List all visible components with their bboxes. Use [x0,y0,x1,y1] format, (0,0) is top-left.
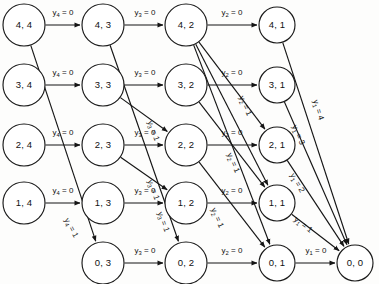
svg-text:y4 = 0: y4 = 0 [53,128,74,137]
node-n12[interactable]: 1, 2 [165,182,207,224]
edge-label-n44-to-n43: y4 = 0 [53,8,74,17]
node-n41[interactable]: 4, 1 [259,7,295,43]
edge-label-n03-to-n02: y3 = 0 [135,246,156,255]
node-label: 3, 4 [16,79,33,90]
edge-label-n12-to-n11: y2 = 0 [222,186,243,195]
svg-text:y1 = 1: y1 = 1 [292,215,315,236]
svg-text:y2 = 1: y2 = 1 [237,95,254,118]
network-diagram-canvas: 4, 44, 34, 24, 13, 43, 33, 23, 12, 42, 3… [0,0,379,284]
node-label: 3, 1 [269,79,286,90]
edge-label-n32-to-n31: y2 = 0 [222,68,243,77]
node-label: 2, 1 [269,139,286,150]
node-n33[interactable]: 3, 3 [82,64,124,106]
network-diagram: 4, 44, 34, 24, 13, 43, 33, 23, 12, 42, 3… [0,0,379,284]
node-n22[interactable]: 2, 2 [165,124,207,166]
node-label: 1, 2 [178,197,195,208]
node-n00[interactable]: 0, 0 [337,245,373,281]
node-n42[interactable]: 4, 2 [165,4,207,46]
node-n21[interactable]: 2, 1 [259,127,295,163]
svg-text:y4 = 0: y4 = 0 [53,8,74,17]
node-n11[interactable]: 1, 1 [259,185,295,221]
svg-text:y4 = 1: y4 = 1 [62,217,80,240]
node-label: 1, 3 [95,197,112,208]
node-label: 2, 2 [178,139,195,150]
node-label: 4, 4 [16,19,33,30]
node-n32[interactable]: 3, 2 [165,64,207,106]
node-n44[interactable]: 4, 4 [3,4,45,46]
node-label: 3, 3 [95,79,112,90]
svg-text:y2 = 0: y2 = 0 [222,246,243,255]
node-label: 0, 1 [269,257,286,268]
edge-label-n44-to-n03: y4 = 1 [62,217,80,240]
node-label: 4, 1 [269,19,286,30]
node-label: 4, 3 [95,19,112,30]
edge-n33-to-n22 [120,98,167,132]
edge-label-n43-to-n42: y3 = 0 [135,8,156,17]
node-n24[interactable]: 2, 4 [3,124,45,166]
edge-label-n02-to-n01: y2 = 0 [222,246,243,255]
node-label: 0, 3 [95,257,112,268]
svg-text:y2 = 0: y2 = 0 [222,186,243,195]
node-n43[interactable]: 4, 3 [82,4,124,46]
edge-n23-to-n12 [121,157,168,190]
edge-label-n42-to-n21: y2 = 1 [237,95,254,118]
svg-text:y3 = 0: y3 = 0 [135,68,156,77]
edge-label-n42-to-n01: y2 = 1 [209,207,226,230]
svg-text:y4 = 0: y4 = 0 [53,68,74,77]
svg-text:y1 = 0: y1 = 0 [306,246,327,255]
edge-label-n22-to-n21: y2 = 0 [222,128,243,137]
svg-text:y2 = 0: y2 = 0 [222,8,243,17]
edge-label-n24-to-n23: y4 = 0 [53,128,74,137]
node-label: 0, 2 [178,257,195,268]
node-n13[interactable]: 1, 3 [82,182,124,224]
svg-text:y4 = 0: y4 = 0 [53,186,74,195]
edge-label-n14-to-n13: y4 = 0 [53,186,74,195]
node-label: 1, 1 [269,197,286,208]
node-label: 4, 2 [178,19,195,30]
edge-label-n42-to-n41: y2 = 0 [222,8,243,17]
svg-text:y3 = 0: y3 = 0 [135,8,156,17]
edge-label-n41-to-n00: y1 = 4 [311,99,326,122]
nodes-layer: 4, 44, 34, 24, 13, 43, 33, 23, 12, 42, 3… [3,4,373,284]
node-label: 2, 4 [16,139,33,150]
node-label: 3, 2 [178,79,195,90]
node-label: 1, 4 [16,197,33,208]
node-label: 2, 3 [95,139,112,150]
svg-text:y1 = 4: y1 = 4 [311,99,326,122]
svg-text:y2 = 1: y2 = 1 [209,207,226,230]
edge-label-n11-to-n00: y1 = 1 [292,215,315,236]
edge-label-n01-to-n00: y1 = 0 [306,246,327,255]
node-n23[interactable]: 2, 3 [82,124,124,166]
svg-text:y2 = 0: y2 = 0 [222,128,243,137]
node-n14[interactable]: 1, 4 [3,182,45,224]
node-n01[interactable]: 0, 1 [259,245,295,281]
svg-text:y2 = 0: y2 = 0 [222,68,243,77]
node-n34[interactable]: 3, 4 [3,64,45,106]
svg-text:y3 = 0: y3 = 0 [135,246,156,255]
edge-label-n33-to-n32: y3 = 0 [135,68,156,77]
node-label: 0, 0 [347,257,364,268]
node-n03[interactable]: 0, 3 [82,242,124,284]
edge-label-n34-to-n33: y4 = 0 [53,68,74,77]
node-n02[interactable]: 0, 2 [165,242,207,284]
node-n31[interactable]: 3, 1 [259,67,295,103]
